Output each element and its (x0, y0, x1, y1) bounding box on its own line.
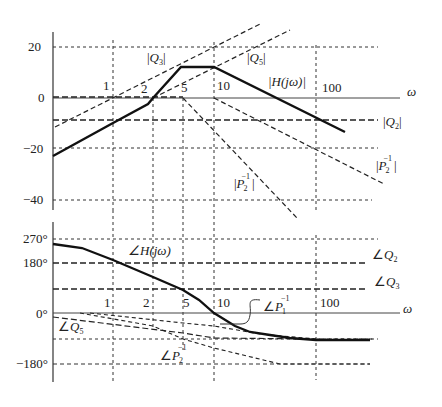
phase-label-H: ∠H(jω) (128, 243, 171, 258)
phase-freq-1: 1 (104, 295, 111, 310)
mag-tick-m20: −20 (23, 141, 43, 156)
phase-label-Q5: ∠Q5 (58, 319, 83, 336)
mag-omega-label: ω (407, 84, 416, 99)
phase-P1inv-line (90, 313, 375, 339)
mag-label-Q3: |Q3| (147, 50, 166, 67)
phase-freq-100: 100 (320, 295, 340, 310)
bode-plot: 20 0 −20 −40 1 2 5 10 100 ω |Q3| |Q5| |H… (0, 0, 442, 407)
mag-freq-10: 10 (217, 78, 230, 93)
magnitude-plot: 20 0 −20 −40 1 2 5 10 100 ω |Q3| |Q5| |H… (23, 24, 416, 218)
mag-label-Q2: |Q2| (383, 114, 402, 131)
phase-tick-180: 180° (23, 255, 48, 270)
mag-freq-100: 100 (322, 80, 342, 95)
phase-tick-m180: −180° (16, 356, 48, 371)
mag-label-H: |H(jω)| (268, 74, 306, 89)
phase-freq-2: 2 (143, 295, 150, 310)
mag-tick-20: 20 (28, 39, 41, 54)
phase-label-P2inv: ∠P2−1 (160, 343, 186, 365)
mag-tick-m40: −40 (23, 192, 43, 207)
mag-freq-1: 1 (103, 78, 110, 93)
mag-tick-0: 0 (38, 90, 45, 105)
phase-label-Q2: ∠Q2 (372, 247, 397, 264)
phase-P1inv-leader (240, 300, 260, 324)
phase-omega-label: ω (403, 301, 412, 316)
mag-P2inv-right-line (214, 98, 384, 184)
mag-freq-5: 5 (181, 80, 188, 95)
phase-freq-10: 10 (217, 295, 230, 310)
mag-label-P2inv-left: |P2−1| (234, 172, 255, 193)
phase-label-Q3: ∠Q3 (374, 274, 399, 291)
phase-plot: 270° 180° 0° −180° 1 2 5 10 100 ω ∠H(jω)… (16, 210, 412, 382)
mag-freq-2: 2 (141, 81, 148, 96)
mag-label-Q5: |Q5| (247, 50, 266, 67)
mag-label-P2inv-right: |P2−1| (376, 154, 397, 175)
mag-v-gridlines (113, 40, 316, 210)
phase-tick-270: 270° (23, 231, 48, 246)
phase-tick-0: 0° (36, 306, 48, 321)
phase-freq-5: 5 (183, 295, 190, 310)
phase-label-P1inv: ∠P1−1 (263, 294, 289, 316)
